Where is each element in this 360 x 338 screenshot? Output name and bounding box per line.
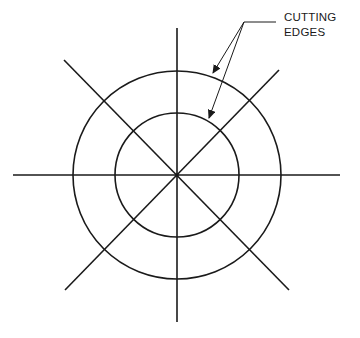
diagonal-line-bl-tr (65, 70, 279, 290)
cutting-edges-label: CUTTING EDGES (284, 10, 337, 40)
cutting-edges-diagram: CUTTING EDGES (0, 0, 360, 338)
center-point (175, 173, 179, 177)
label-line-2: EDGES (284, 25, 337, 40)
label-line-1: CUTTING (284, 10, 337, 25)
diagram-drawing (0, 0, 360, 338)
